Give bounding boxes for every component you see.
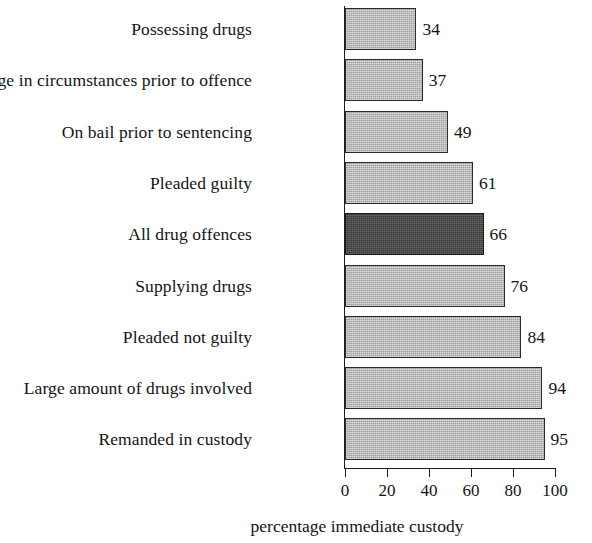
bar — [345, 162, 473, 204]
category-label: Change in circumstances prior to offence — [0, 59, 252, 101]
category-label: Pleaded guilty — [150, 162, 252, 204]
bar-row: Pleaded not guilty84 — [0, 316, 592, 358]
bar-row: Remanded in custody95 — [0, 418, 592, 460]
bar — [345, 8, 416, 50]
bar — [345, 316, 521, 358]
bar-row: Supplying drugs76 — [0, 265, 592, 307]
bar — [345, 59, 423, 101]
bar-highlighted — [345, 213, 484, 255]
x-axis-line — [344, 468, 556, 469]
bar-row: Pleaded guilty61 — [0, 162, 592, 204]
bar-row: Possessing drugs34 — [0, 8, 592, 50]
bar-value-label: 76 — [511, 265, 529, 307]
x-axis-tick — [555, 469, 556, 477]
bar-value-label: 61 — [479, 162, 497, 204]
bar-row: All drug offences66 — [0, 213, 592, 255]
x-axis-tick-label: 40 — [421, 481, 438, 501]
category-label: Pleaded not guilty — [123, 316, 252, 358]
x-axis-tick-label: 60 — [463, 481, 480, 501]
x-axis-tick-label: 80 — [505, 481, 522, 501]
x-axis-tick — [513, 469, 514, 477]
bar-value-label: 34 — [422, 8, 440, 50]
x-axis-tick — [345, 469, 346, 477]
y-axis-line — [344, 6, 345, 468]
bar-value-label: 66 — [490, 213, 508, 255]
x-axis-tick-label: 0 — [341, 481, 350, 501]
category-label: Possessing drugs — [131, 8, 252, 50]
bar-value-label: 94 — [548, 367, 566, 409]
bar — [345, 265, 505, 307]
x-axis-caption: percentage immediate custody — [0, 516, 592, 537]
x-axis-tick — [471, 469, 472, 477]
category-label: Large amount of drugs involved — [24, 367, 252, 409]
category-label: On bail prior to sentencing — [62, 111, 252, 153]
category-label: Supplying drugs — [135, 265, 252, 307]
bar-value-label: 95 — [551, 418, 569, 460]
bar-value-label: 49 — [454, 111, 472, 153]
bar-row: On bail prior to sentencing49 — [0, 111, 592, 153]
x-axis-tick — [429, 469, 430, 477]
x-axis-tick-label: 20 — [379, 481, 396, 501]
bar — [345, 111, 448, 153]
plot-area: Possessing drugs34Change in circumstance… — [0, 0, 592, 480]
bar-value-label: 84 — [527, 316, 545, 358]
category-label: All drug offences — [128, 213, 252, 255]
bar-chart-figure: Possessing drugs34Change in circumstance… — [0, 0, 592, 543]
x-axis-tick — [387, 469, 388, 477]
bar — [345, 418, 545, 460]
bar — [345, 367, 542, 409]
x-axis-tick-label: 100 — [542, 481, 568, 501]
bar-row: Large amount of drugs involved94 — [0, 367, 592, 409]
bar-value-label: 37 — [429, 59, 447, 101]
bar-row: Change in circumstances prior to offence… — [0, 59, 592, 101]
category-label: Remanded in custody — [98, 418, 252, 460]
